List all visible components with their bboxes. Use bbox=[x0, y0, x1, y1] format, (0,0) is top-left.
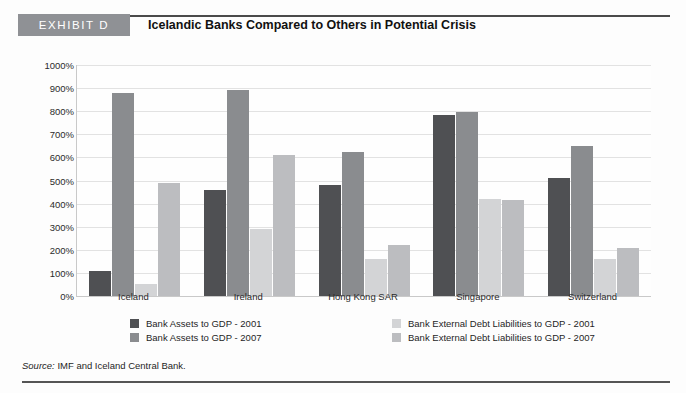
legend-item[interactable]: Bank External Debt Liabilities to GDP - … bbox=[392, 318, 595, 329]
bar bbox=[388, 245, 410, 296]
bar bbox=[342, 152, 364, 296]
bar bbox=[456, 112, 478, 296]
chart-legend: Bank Assets to GDP - 2001Bank Assets to … bbox=[130, 318, 660, 348]
legend-item[interactable]: Bank External Debt Liabilities to GDP - … bbox=[392, 332, 595, 343]
bar bbox=[479, 199, 501, 296]
y-axis-tick-label: 100% bbox=[24, 267, 74, 278]
bar bbox=[548, 178, 570, 296]
y-axis-tick-label: 600% bbox=[24, 152, 74, 163]
bar bbox=[319, 185, 341, 296]
legend-label: Bank Assets to GDP - 2007 bbox=[146, 332, 261, 343]
bar bbox=[571, 146, 593, 296]
exhibit-header: EXHIBIT D Icelandic Banks Compared to Ot… bbox=[18, 14, 670, 38]
exhibit-panel: EXHIBIT D Icelandic Banks Compared to Ot… bbox=[0, 0, 686, 393]
exhibit-tag: EXHIBIT D bbox=[18, 14, 130, 36]
bar bbox=[112, 93, 134, 296]
source-note: Source: IMF and Iceland Central Bank. bbox=[22, 360, 186, 371]
y-axis-tick-label: 200% bbox=[24, 244, 74, 255]
bar bbox=[250, 229, 272, 296]
y-axis-tick-label: 1000% bbox=[24, 60, 74, 71]
legend-item[interactable]: Bank Assets to GDP - 2001 bbox=[130, 318, 261, 329]
legend-swatch bbox=[392, 319, 401, 328]
source-label: Source: bbox=[22, 360, 55, 371]
y-axis-tick-label: 700% bbox=[24, 129, 74, 140]
bar-group bbox=[433, 65, 524, 296]
bar bbox=[227, 90, 249, 296]
bar bbox=[433, 115, 455, 296]
chart-container: 1000%900%800%700%600%500%400%300%200%100… bbox=[18, 55, 670, 307]
plot-area bbox=[76, 65, 651, 297]
bar-group bbox=[319, 65, 410, 296]
y-axis-tick-label: 900% bbox=[24, 83, 74, 94]
y-axis-tick-label: 0% bbox=[24, 291, 74, 302]
bar bbox=[204, 190, 226, 296]
x-axis-label: Ireland bbox=[234, 291, 263, 302]
legend-swatch bbox=[130, 319, 139, 328]
y-axis-tick-label: 800% bbox=[24, 106, 74, 117]
header-divider bbox=[130, 15, 670, 17]
legend-swatch bbox=[130, 333, 139, 342]
page-title: Icelandic Banks Compared to Others in Po… bbox=[148, 18, 476, 32]
bar-group bbox=[548, 65, 639, 296]
x-axis-label: Iceland bbox=[118, 291, 149, 302]
y-axis-tick-label: 400% bbox=[24, 198, 74, 209]
source-text: IMF and Iceland Central Bank. bbox=[55, 360, 186, 371]
legend-swatch bbox=[392, 333, 401, 342]
bar bbox=[158, 183, 180, 296]
bar bbox=[89, 271, 111, 296]
bar-group bbox=[204, 65, 295, 296]
x-axis-label: Switzerland bbox=[568, 291, 617, 302]
bar bbox=[617, 248, 639, 297]
x-axis-label: Hong Kong SAR bbox=[328, 291, 398, 302]
legend-item[interactable]: Bank Assets to GDP - 2007 bbox=[130, 332, 261, 343]
y-axis-tick-label: 300% bbox=[24, 221, 74, 232]
bar-group bbox=[89, 65, 180, 296]
x-axis-label: Singapore bbox=[456, 291, 499, 302]
bar bbox=[273, 155, 295, 296]
y-axis-tick-label: 500% bbox=[24, 175, 74, 186]
legend-label: Bank External Debt Liabilities to GDP - … bbox=[408, 332, 595, 343]
legend-label: Bank Assets to GDP - 2001 bbox=[146, 318, 261, 329]
bar bbox=[502, 200, 524, 296]
legend-label: Bank External Debt Liabilities to GDP - … bbox=[408, 318, 595, 329]
footer-divider bbox=[22, 381, 670, 383]
